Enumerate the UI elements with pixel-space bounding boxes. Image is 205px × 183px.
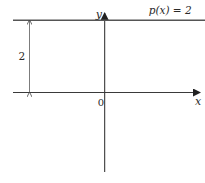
chart-canvas: y x 0 p(x) = 2 2 xyxy=(0,0,205,183)
y-axis-label: y xyxy=(95,8,103,21)
function-label: p(x) = 2 xyxy=(149,4,192,16)
dimension-label: 2 xyxy=(19,50,26,62)
x-axis-label: x xyxy=(195,95,202,108)
origin-label: 0 xyxy=(98,97,104,108)
